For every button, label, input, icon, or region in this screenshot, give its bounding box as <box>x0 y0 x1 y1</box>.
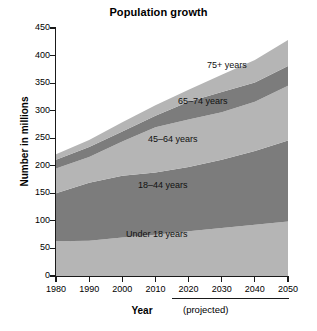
y-tick-label: 400 <box>20 51 50 60</box>
y-tick-mark <box>50 138 56 139</box>
y-tick-mark <box>50 27 56 28</box>
y-tick-label: 150 <box>20 188 50 197</box>
y-axis-line <box>55 28 56 277</box>
x-tick-label: 2050 <box>268 284 308 294</box>
y-tick-mark <box>50 193 56 194</box>
band-label-65-74: 65–74 years <box>178 96 228 106</box>
y-tick-label-wrap: 150 <box>0 188 50 197</box>
y-tick-label-wrap: 50 <box>0 243 50 252</box>
y-tick-label-wrap: 450 <box>0 23 50 32</box>
x-tick-mark <box>188 277 189 282</box>
x-tick-mark <box>254 277 255 282</box>
x-tick-mark <box>155 277 156 282</box>
y-tick-mark <box>50 83 56 84</box>
x-tick-mark <box>122 277 123 282</box>
y-tick-label-wrap: 200 <box>0 161 50 170</box>
y-tick-mark <box>50 220 56 221</box>
y-tick-label-wrap: 350 <box>0 78 50 87</box>
y-tick-label: 100 <box>20 216 50 225</box>
y-tick-label: 450 <box>20 23 50 32</box>
y-tick-label: 200 <box>20 161 50 170</box>
y-tick-label-wrap: 400 <box>0 51 50 60</box>
y-tick-label-wrap: 250 <box>0 133 50 142</box>
y-tick-label: 250 <box>20 133 50 142</box>
y-tick-mark <box>50 165 56 166</box>
band-label-45-64: 45–64 years <box>148 134 198 144</box>
y-tick-label-wrap: 300 <box>0 106 50 115</box>
band-label-18-44: 18–44 years <box>138 180 188 190</box>
band-label-75-plus: 75+ years <box>207 60 247 70</box>
y-tick-mark <box>50 110 56 111</box>
y-tick-mark <box>50 55 56 56</box>
y-tick-label: 50 <box>20 243 50 252</box>
y-tick-mark <box>50 248 56 249</box>
x-tick-mark <box>89 277 90 282</box>
band-label-under-18: Under 18 years <box>126 229 188 239</box>
population-growth-chart: Population growth Number in millions 050… <box>0 0 317 331</box>
y-tick-label: 0 <box>20 271 50 280</box>
y-tick-label-wrap: 100 <box>0 216 50 225</box>
x-tick-mark <box>55 277 56 282</box>
projected-range-rule <box>172 298 289 299</box>
x-tick-mark <box>287 277 288 282</box>
x-tick-mark <box>221 277 222 282</box>
chart-title: Population growth <box>0 6 317 19</box>
y-tick-label: 350 <box>20 78 50 87</box>
projected-annotation: (projected) <box>183 304 273 316</box>
y-tick-label: 300 <box>20 106 50 115</box>
y-tick-label-wrap: 0 <box>0 271 50 280</box>
x-axis-title: Year <box>112 305 172 317</box>
